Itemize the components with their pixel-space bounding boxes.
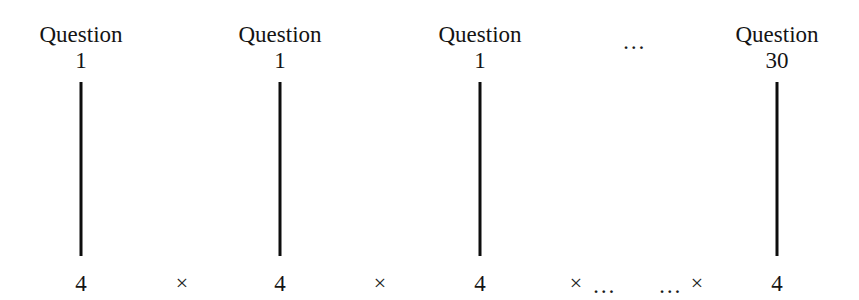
branch-stem-4	[776, 82, 779, 256]
column-header-2: Question 1	[238, 22, 321, 74]
column-header-3: Question 1	[438, 22, 521, 74]
product-term-2: 4	[274, 272, 286, 295]
product-term-1: 4	[75, 272, 87, 295]
column-header-1: Question 1	[39, 22, 122, 74]
column-header-4: Question 30	[735, 22, 818, 74]
multiplication-icon-3: ×	[570, 272, 582, 294]
product-ellipsis-left-icon: …	[592, 274, 616, 297]
branch-stem-2	[279, 82, 282, 256]
multiplication-icon-2: ×	[374, 272, 386, 294]
column-header-number: 1	[238, 48, 321, 74]
column-header-word: Question	[39, 22, 122, 48]
column-header-word: Question	[238, 22, 321, 48]
column-header-number: 30	[735, 48, 818, 74]
column-header-word: Question	[735, 22, 818, 48]
column-header-number: 1	[39, 48, 122, 74]
column-header-word: Question	[438, 22, 521, 48]
product-ellipsis-right-icon: …	[658, 274, 682, 297]
question-branching-figure: Question 1 Question 1 Question 1 Questio…	[0, 0, 859, 300]
branch-stem-1	[80, 82, 83, 256]
product-term-4: 4	[771, 272, 783, 295]
branch-stem-3	[479, 82, 482, 256]
multiplication-icon-1: ×	[176, 272, 188, 294]
column-header-number: 1	[438, 48, 521, 74]
multiplication-icon-4: ×	[691, 272, 703, 294]
header-ellipsis-icon: …	[622, 30, 646, 53]
product-term-3: 4	[474, 272, 486, 295]
